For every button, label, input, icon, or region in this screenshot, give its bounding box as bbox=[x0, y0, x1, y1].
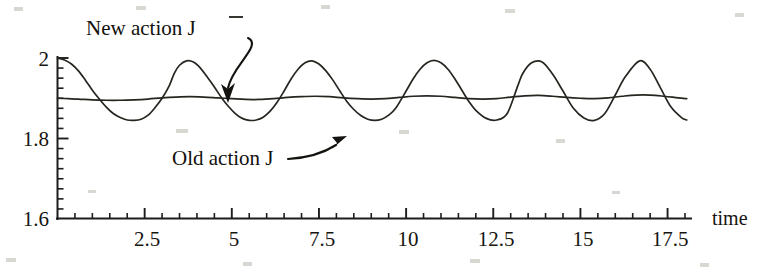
old-action-annotation-label: Old action J bbox=[172, 146, 273, 170]
old-action-annotation-leader bbox=[288, 145, 336, 159]
series-old-action-j bbox=[58, 58, 687, 121]
new-action-annotation-leader bbox=[228, 38, 252, 88]
old-action-annotation: Old action J bbox=[172, 136, 347, 170]
x-tick-label-12-5: 12.5 bbox=[478, 227, 515, 251]
series-group bbox=[58, 58, 687, 121]
x-tick-label-10: 10 bbox=[398, 227, 419, 251]
axes bbox=[57, 57, 691, 219]
y-tick-labels: 2 1.8 1.6 bbox=[23, 47, 49, 231]
series-new-action-j-bar bbox=[58, 95, 687, 100]
x-axis-title: time bbox=[712, 207, 748, 229]
y-tick-label-1-6: 1.6 bbox=[23, 207, 49, 231]
x-tick-labels: 2.5 5 7.5 10 12.5 15 17.5 bbox=[134, 227, 689, 251]
x-tick-label-5: 5 bbox=[229, 227, 240, 251]
figure-container: 2 1.8 1.6 2.5 5 7.5 10 12.5 15 17.5 time… bbox=[0, 0, 779, 272]
y-tick-label-1-8: 1.8 bbox=[23, 127, 49, 151]
y-tick-label-2: 2 bbox=[39, 47, 50, 71]
x-tick-label-15: 15 bbox=[573, 227, 594, 251]
chart-canvas: 2 1.8 1.6 2.5 5 7.5 10 12.5 15 17.5 time… bbox=[0, 0, 779, 272]
x-tick-label-17-5: 17.5 bbox=[652, 227, 689, 251]
x-tick-label-2-5: 2.5 bbox=[134, 227, 160, 251]
x-tick-label-7-5: 7.5 bbox=[309, 227, 335, 251]
x-axis-ticks bbox=[75, 208, 685, 219]
new-action-annotation: New action J bbox=[86, 16, 252, 103]
scan-noise bbox=[6, 5, 744, 267]
y-axis-ticks bbox=[58, 58, 69, 209]
new-action-annotation-label: New action J bbox=[86, 16, 196, 40]
